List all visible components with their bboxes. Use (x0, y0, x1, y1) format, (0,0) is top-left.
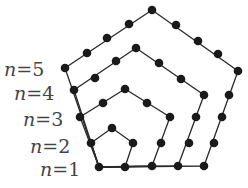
n-labels: n=5n=4n=3n=2n=1 (4, 58, 80, 180)
dot (214, 50, 223, 59)
dot (99, 99, 108, 108)
dot (83, 49, 92, 58)
dot (148, 162, 157, 171)
dot (200, 91, 209, 100)
dot (177, 75, 186, 84)
dot (194, 37, 203, 46)
dot (210, 139, 219, 148)
dot (112, 57, 121, 66)
label-n=1: n=1 (40, 158, 80, 180)
dot (87, 139, 96, 148)
dot (95, 163, 104, 172)
dot (166, 113, 175, 122)
dot (143, 99, 152, 108)
dot (157, 139, 166, 148)
dot (185, 139, 194, 148)
dot (70, 86, 79, 95)
dot (172, 21, 181, 30)
dot (91, 74, 100, 83)
dot (200, 162, 209, 171)
dot (125, 20, 134, 29)
dot (148, 6, 157, 15)
dot (218, 113, 227, 122)
pentagon-n3 (80, 89, 170, 167)
dot (174, 162, 183, 171)
dot (192, 113, 201, 122)
dot (61, 64, 70, 73)
dot (121, 85, 130, 94)
dot (76, 113, 85, 122)
dot (132, 44, 141, 53)
label-n=4: n=4 (14, 82, 54, 104)
pentagonal-numbers-diagram: n=5n=4n=3n=2n=1 (0, 0, 248, 188)
label-n=5: n=5 (4, 58, 44, 80)
dot (108, 124, 117, 133)
dot (234, 67, 243, 76)
dot (129, 139, 138, 148)
label-n=3: n=3 (23, 108, 63, 130)
dot (155, 59, 164, 68)
dot (225, 91, 234, 100)
label-n=2: n=2 (30, 135, 70, 157)
dot (121, 163, 130, 172)
dots (61, 6, 243, 172)
dot (103, 34, 112, 43)
